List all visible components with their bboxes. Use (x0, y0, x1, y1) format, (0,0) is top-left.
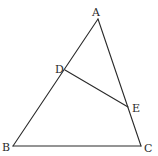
label-c: C (144, 142, 152, 155)
segment-de (65, 70, 128, 107)
triangle-diagram: A B C D E (0, 0, 158, 156)
label-a: A (91, 6, 101, 19)
label-d: D (55, 63, 64, 76)
label-e: E (132, 102, 140, 115)
label-b: B (2, 141, 10, 154)
segment-ac (98, 19, 141, 146)
